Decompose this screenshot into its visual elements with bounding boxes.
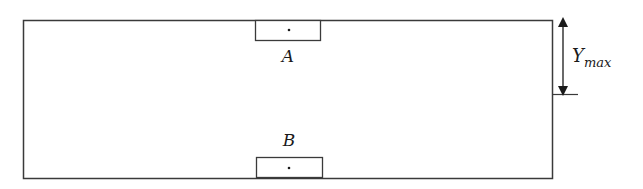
element-a-center-dot bbox=[288, 29, 291, 32]
element-b-center-dot bbox=[288, 167, 291, 170]
element-b-label: B bbox=[282, 130, 296, 150]
element-a: A bbox=[256, 21, 321, 67]
element-b: B bbox=[257, 130, 323, 178]
diagram-canvas: A B Ymax bbox=[0, 0, 643, 189]
ymax-dimension: Ymax bbox=[552, 22, 612, 95]
ymax-label-subscript: max bbox=[584, 55, 612, 70]
ymax-label: Ymax bbox=[572, 45, 612, 70]
element-a-label: A bbox=[280, 46, 294, 66]
outer-boundary-rect bbox=[24, 21, 553, 179]
